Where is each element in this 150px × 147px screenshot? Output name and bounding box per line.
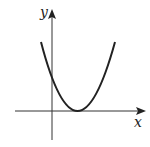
x-axis-label: x: [134, 114, 142, 130]
y-axis-label: y: [39, 4, 49, 20]
function-graph: y x: [0, 0, 150, 147]
